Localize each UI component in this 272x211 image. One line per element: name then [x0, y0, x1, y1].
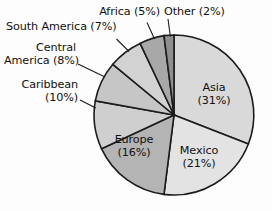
pie-label-mexico-line2: (21%): [168, 158, 230, 171]
pie-label-mexico-line1: Mexico: [168, 145, 230, 158]
leader-line-south-america: [117, 39, 130, 52]
leader-line-other: [168, 19, 170, 37]
pie-label-europe-line2: (16%): [104, 147, 164, 160]
pie-label-asia-line1: Asia: [184, 82, 244, 95]
pie-label-south-america: South America (7%): [6, 21, 116, 34]
pie-label-caribbean: Caribbean (10%): [4, 79, 78, 104]
pie-label-asia: Asia (31%): [184, 82, 244, 107]
pie-label-caribbean-line2: (10%): [4, 92, 78, 105]
leader-line-central-america: [78, 64, 104, 77]
pie-label-central-america-line2: America (8%): [4, 55, 76, 68]
pie-label-mexico: Mexico (21%): [168, 145, 230, 170]
pie-label-africa: Africa (5%): [84, 6, 160, 19]
pie-label-europe: Europe (16%): [104, 134, 164, 159]
pie-label-europe-line1: Europe: [104, 134, 164, 147]
pie-label-south-america-line1: South America (7%): [6, 21, 116, 34]
pie-label-africa-line1: Africa (5%): [84, 6, 160, 19]
leader-line-africa: [147, 23, 155, 40]
pie-label-central-america-line1: Central: [4, 42, 76, 55]
pie-label-caribbean-line1: Caribbean: [4, 79, 78, 92]
pie-label-other: Other (2%): [164, 6, 225, 19]
leader-line-caribbean: [80, 100, 96, 108]
pie-chart-figure: Other (2%) Africa (5%) South America (7%…: [0, 0, 272, 211]
pie-slices: [94, 35, 254, 195]
pie-label-asia-line2: (31%): [184, 95, 244, 108]
pie-label-other-line1: Other (2%): [164, 6, 225, 19]
pie-label-central-america: Central America (8%): [4, 42, 76, 67]
